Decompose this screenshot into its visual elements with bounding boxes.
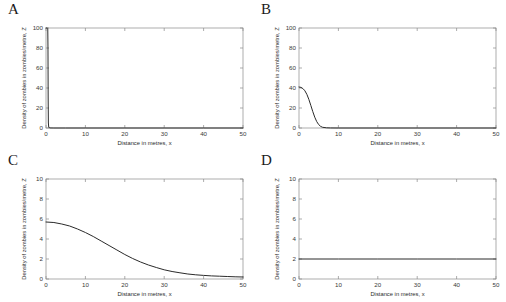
- svg-text:0: 0: [40, 275, 44, 282]
- svg-text:20: 20: [36, 104, 43, 111]
- svg-text:8: 8: [40, 195, 44, 202]
- svg-text:20: 20: [121, 130, 128, 137]
- svg-text:Density of zombies in zombies/: Density of zombies in zombies/metre, Z: [274, 27, 280, 129]
- panel-a: A 01020304050020406080100Distance in met…: [0, 0, 253, 151]
- svg-text:40: 40: [289, 84, 296, 91]
- svg-text:0: 0: [293, 124, 297, 131]
- svg-text:30: 30: [161, 281, 168, 288]
- svg-text:Distance in metres, x: Distance in metres, x: [370, 140, 424, 146]
- svg-text:0: 0: [44, 130, 48, 137]
- svg-text:0: 0: [293, 275, 297, 282]
- svg-text:0: 0: [40, 124, 44, 131]
- svg-text:20: 20: [121, 281, 128, 288]
- svg-text:100: 100: [286, 24, 297, 31]
- svg-text:50: 50: [493, 130, 500, 137]
- svg-text:10: 10: [82, 130, 89, 137]
- svg-text:80: 80: [289, 44, 296, 51]
- svg-text:8: 8: [293, 195, 297, 202]
- zombie-density-figure: A 01020304050020406080100Distance in met…: [0, 0, 506, 302]
- svg-text:60: 60: [36, 64, 43, 71]
- svg-text:80: 80: [36, 44, 43, 51]
- svg-text:10: 10: [82, 281, 89, 288]
- svg-text:10: 10: [335, 281, 342, 288]
- svg-text:20: 20: [289, 104, 296, 111]
- svg-text:30: 30: [414, 281, 421, 288]
- plot-b: 01020304050020406080100Distance in metre…: [253, 0, 506, 151]
- svg-text:Density of zombies in zombies/: Density of zombies in zombies/metre, Z: [21, 178, 27, 280]
- svg-text:10: 10: [36, 175, 43, 182]
- svg-text:60: 60: [289, 64, 296, 71]
- panel-c: C 010203040500246810Distance in metres, …: [0, 151, 253, 302]
- svg-text:Distance in metres, x: Distance in metres, x: [117, 291, 171, 297]
- svg-text:10: 10: [289, 175, 296, 182]
- svg-text:6: 6: [40, 215, 44, 222]
- svg-text:20: 20: [374, 281, 381, 288]
- svg-text:0: 0: [297, 130, 301, 137]
- svg-text:Distance in metres, x: Distance in metres, x: [370, 291, 424, 297]
- svg-text:40: 40: [453, 281, 460, 288]
- svg-text:Distance in metres, x: Distance in metres, x: [117, 140, 171, 146]
- svg-text:2: 2: [293, 255, 297, 262]
- svg-text:4: 4: [40, 235, 44, 242]
- plot-d: 010203040500246810Distance in metres, xD…: [253, 151, 506, 302]
- svg-text:50: 50: [240, 281, 247, 288]
- svg-text:30: 30: [414, 130, 421, 137]
- svg-text:50: 50: [493, 281, 500, 288]
- svg-text:10: 10: [335, 130, 342, 137]
- plot-c: 010203040500246810Distance in metres, xD…: [0, 151, 253, 302]
- svg-text:6: 6: [293, 215, 297, 222]
- svg-text:Density of zombies in zombies/: Density of zombies in zombies/metre, Z: [21, 27, 27, 129]
- panel-b: B 01020304050020406080100Distance in met…: [253, 0, 506, 151]
- svg-text:2: 2: [40, 255, 44, 262]
- svg-text:100: 100: [33, 24, 44, 31]
- svg-text:30: 30: [161, 130, 168, 137]
- svg-text:40: 40: [453, 130, 460, 137]
- svg-text:0: 0: [297, 281, 301, 288]
- svg-text:0: 0: [44, 281, 48, 288]
- plot-a: 01020304050020406080100Distance in metre…: [0, 0, 253, 151]
- svg-text:40: 40: [200, 281, 207, 288]
- svg-text:4: 4: [293, 235, 297, 242]
- svg-text:40: 40: [200, 130, 207, 137]
- svg-text:40: 40: [36, 84, 43, 91]
- svg-text:50: 50: [240, 130, 247, 137]
- svg-text:20: 20: [374, 130, 381, 137]
- svg-text:Density of zombies in zombies/: Density of zombies in zombies/metre, Z: [274, 178, 280, 280]
- panel-d: D 010203040500246810Distance in metres, …: [253, 151, 506, 302]
